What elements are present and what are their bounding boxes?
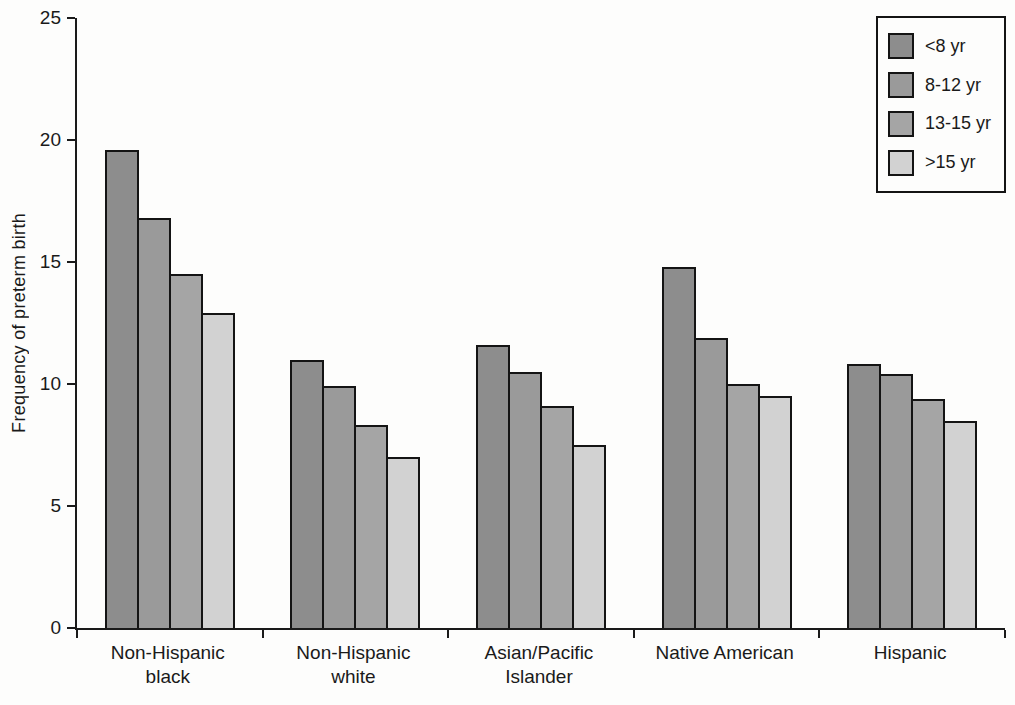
bar-group (634, 18, 820, 628)
bar (386, 457, 420, 628)
bar (662, 267, 696, 628)
legend-item: <8 yr (888, 33, 994, 59)
bar-group (263, 18, 449, 628)
bar (290, 360, 324, 628)
preterm-birth-bar-chart: Frequency of preterm birth 0510152025 No… (0, 0, 1015, 705)
legend-swatch (888, 33, 914, 59)
x-axis-tick (633, 630, 635, 638)
bar (540, 406, 574, 628)
bar (137, 218, 171, 628)
x-axis-tick (818, 630, 820, 638)
legend-label: >15 yr (925, 152, 976, 173)
y-axis-title: Frequency of preterm birth (9, 213, 30, 433)
bar (911, 399, 945, 628)
y-axis-tick-label: 20 (21, 129, 61, 151)
bar (508, 372, 542, 628)
legend-label: <8 yr (925, 36, 966, 57)
legend-item: 13-15 yr (888, 111, 994, 137)
y-axis-tick-label: 5 (21, 495, 61, 517)
x-category-label: Asian/Pacific Islander (446, 641, 632, 689)
x-category-label: Non-Hispanic white (261, 641, 447, 689)
y-axis-tick (67, 139, 75, 141)
legend-swatch (888, 72, 914, 98)
y-axis-tick-label: 10 (21, 373, 61, 395)
x-axis-tick (76, 630, 78, 638)
bar (322, 386, 356, 628)
x-axis-category-labels: Non-Hispanic blackNon-Hispanic whiteAsia… (75, 641, 1003, 689)
bar (354, 425, 388, 628)
y-axis-tick-label: 0 (21, 617, 61, 639)
bar (169, 274, 203, 628)
x-category-label: Hispanic (817, 641, 1003, 689)
bar (847, 364, 881, 628)
legend-swatch (888, 150, 914, 176)
legend: <8 yr8-12 yr13-15 yr>15 yr (876, 16, 1006, 193)
y-axis-tick (67, 505, 75, 507)
legend-item: >15 yr (888, 150, 994, 176)
legend-swatch (888, 111, 914, 137)
y-axis-tick (67, 627, 75, 629)
legend-item: 8-12 yr (888, 72, 994, 98)
bar-groups (77, 18, 1005, 628)
y-axis-tick (67, 383, 75, 385)
x-category-label: Native American (632, 641, 818, 689)
bar (201, 313, 235, 628)
x-axis-tick (447, 630, 449, 638)
bar-group (77, 18, 263, 628)
bar (572, 445, 606, 628)
legend-label: 8-12 yr (925, 75, 981, 96)
legend-label: 13-15 yr (925, 113, 991, 134)
bar (879, 374, 913, 628)
y-axis-tick (67, 17, 75, 19)
bar (476, 345, 510, 628)
y-axis-tick (67, 261, 75, 263)
x-axis-tick (1004, 630, 1006, 638)
bar (726, 384, 760, 628)
x-category-label: Non-Hispanic black (75, 641, 261, 689)
y-axis-title-wrap: Frequency of preterm birth (6, 18, 32, 628)
bar (105, 150, 139, 628)
x-axis-tick (262, 630, 264, 638)
y-axis-tick-label: 15 (21, 251, 61, 273)
bar (694, 338, 728, 628)
bar (758, 396, 792, 628)
y-axis-tick-label: 25 (21, 7, 61, 29)
plot-area: 0510152025 (75, 18, 1005, 630)
bar-group (448, 18, 634, 628)
bar (943, 421, 977, 628)
